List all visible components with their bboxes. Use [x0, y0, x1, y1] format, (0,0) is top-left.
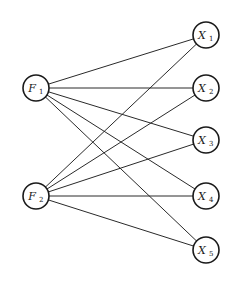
node-label: F: [27, 190, 36, 203]
edge-f2-x5: [36, 196, 206, 250]
edge-f1-x3: [36, 88, 206, 140]
node-circle: [23, 183, 49, 209]
node-circle: [193, 237, 219, 263]
edge-f2-x1: [36, 35, 206, 196]
node-subscript: 5: [209, 250, 213, 258]
node-label: F: [27, 82, 36, 95]
node-f2: F2: [23, 183, 49, 209]
node-x4: X4: [193, 183, 219, 209]
node-label: X: [197, 190, 207, 203]
diagram-canvas: F1F2X1X2X3X4X5: [0, 0, 234, 284]
node-circle: [193, 75, 219, 101]
edge-f1-x1: [36, 35, 206, 88]
edge-f1-x5: [36, 88, 206, 250]
node-label: X: [197, 244, 207, 257]
node-label: X: [197, 82, 207, 95]
node-subscript: 4: [209, 196, 214, 204]
node-label: X: [197, 29, 207, 42]
node-x5: X5: [193, 237, 219, 263]
edge-f2-x3: [36, 140, 206, 196]
node-subscript: 2: [39, 196, 43, 204]
node-x2: X2: [193, 75, 219, 101]
node-circle: [23, 75, 49, 101]
node-subscript: 1: [209, 35, 213, 43]
node-circle: [193, 22, 219, 48]
node-circle: [193, 183, 219, 209]
node-subscript: 3: [209, 140, 213, 148]
node-f1: F1: [23, 75, 49, 101]
node-subscript: 1: [39, 88, 43, 96]
node-label: X: [197, 134, 207, 147]
node-x3: X3: [193, 127, 219, 153]
node-x1: X1: [193, 22, 219, 48]
node-subscript: 2: [209, 88, 213, 96]
node-circle: [193, 127, 219, 153]
edges-layer: [36, 35, 206, 250]
